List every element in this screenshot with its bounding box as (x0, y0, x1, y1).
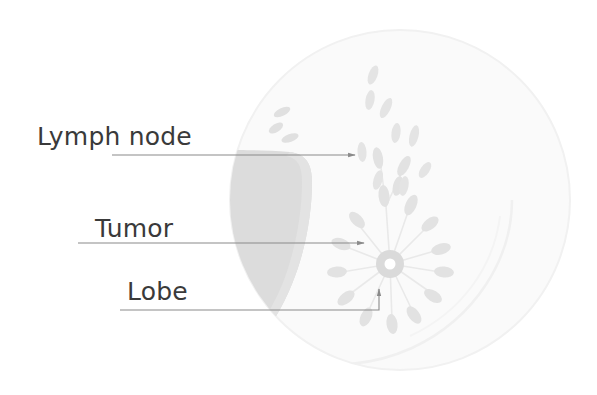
anatomy-illustration (0, 0, 597, 395)
breast-anatomy-figure: Lymph node Tumor Lobe (0, 0, 597, 395)
label-lymph-node: Lymph node (37, 124, 192, 149)
nipple-opening (385, 259, 396, 270)
label-lobe: Lobe (127, 279, 188, 304)
label-tumor: Tumor (95, 216, 173, 241)
